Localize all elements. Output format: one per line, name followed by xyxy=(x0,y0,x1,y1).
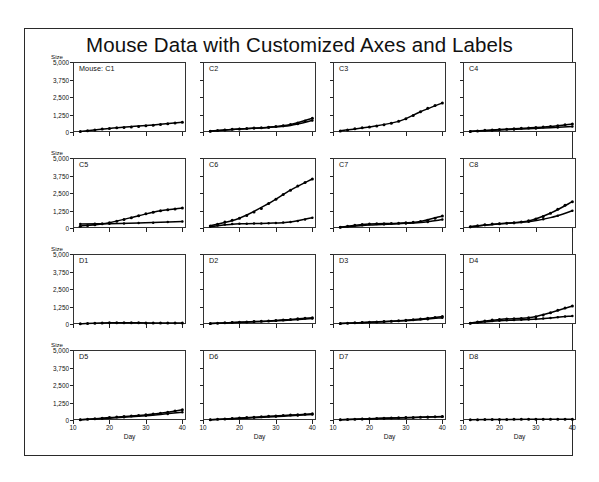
data-point xyxy=(427,318,430,321)
x-tick-label: 10 xyxy=(459,424,466,431)
panel-c8: C8 xyxy=(463,158,576,228)
x-tick-mark xyxy=(73,324,74,328)
y-tick-label: 0 xyxy=(33,129,69,136)
data-point xyxy=(520,319,523,322)
x-axis-label: Day xyxy=(124,433,136,440)
panel-series-plot xyxy=(203,158,316,228)
x-tick-label: 40 xyxy=(309,424,316,431)
data-point xyxy=(564,307,567,310)
data-point xyxy=(405,319,408,322)
data-point xyxy=(441,415,444,418)
data-point xyxy=(159,209,162,212)
data-point xyxy=(441,101,444,104)
panel-series-plot xyxy=(333,158,446,228)
data-point xyxy=(404,117,407,120)
data-point xyxy=(527,220,530,223)
data-point xyxy=(137,214,140,217)
data-point xyxy=(557,214,560,217)
x-tick-mark xyxy=(442,228,443,232)
x-tick-label: 10 xyxy=(329,424,336,431)
data-point xyxy=(383,321,386,324)
panel-series-plot xyxy=(73,158,186,228)
panel-d6: D6 xyxy=(203,350,316,420)
data-point xyxy=(144,321,147,324)
data-point xyxy=(267,202,270,205)
data-point xyxy=(571,122,574,125)
y-tick-label: 1,250 xyxy=(33,303,69,310)
x-tick-mark xyxy=(203,228,204,232)
data-point xyxy=(505,319,508,322)
data-point xyxy=(542,317,545,320)
x-tick-label: 10 xyxy=(69,424,76,431)
panel-series-plot xyxy=(463,62,576,132)
data-point xyxy=(108,127,111,130)
data-point xyxy=(368,125,371,128)
series-tumor-2 xyxy=(79,220,184,225)
data-point xyxy=(549,311,552,314)
figure-frame: Mouse Data with Customized Axes and Labe… xyxy=(24,28,573,456)
data-point xyxy=(527,418,530,421)
data-point xyxy=(426,107,429,110)
data-point xyxy=(513,222,516,225)
x-tick-mark xyxy=(536,132,537,136)
x-tick-mark xyxy=(442,324,443,328)
panel-c6: C6 xyxy=(203,158,316,228)
data-point xyxy=(231,223,234,226)
data-point xyxy=(245,214,248,217)
data-point xyxy=(260,222,263,225)
data-point xyxy=(209,322,212,325)
data-point xyxy=(297,220,300,223)
panel-c3: C3 xyxy=(333,62,446,132)
data-point xyxy=(93,322,96,325)
data-point xyxy=(181,207,184,210)
data-point xyxy=(145,415,148,418)
data-point xyxy=(238,128,241,131)
y-tick-label: 1,250 xyxy=(33,207,69,214)
data-point xyxy=(405,222,408,225)
y-tick-label: 2,500 xyxy=(33,286,69,293)
data-point xyxy=(427,416,430,419)
x-tick-mark xyxy=(333,324,334,328)
data-point xyxy=(534,418,537,421)
data-point xyxy=(469,322,472,325)
x-tick-label: 20 xyxy=(106,424,113,431)
y-tick-label: 5,000 xyxy=(33,155,69,162)
y-tick-label: 5,000 xyxy=(33,59,69,66)
x-tick-label: 10 xyxy=(199,424,206,431)
x-tick-label: 40 xyxy=(439,424,446,431)
data-point xyxy=(137,321,140,324)
data-point xyxy=(419,110,422,113)
data-point xyxy=(167,221,170,224)
series-tumor-1 xyxy=(339,101,444,132)
y-tick-label: 0 xyxy=(33,321,69,328)
data-point xyxy=(557,316,560,319)
y-tick-label: 5,000 xyxy=(33,347,69,354)
data-point xyxy=(556,418,559,421)
x-tick-mark xyxy=(463,420,464,424)
data-point xyxy=(79,130,82,133)
data-point xyxy=(101,321,104,324)
data-point xyxy=(289,189,292,192)
data-point xyxy=(166,208,169,211)
data-point xyxy=(390,122,393,125)
data-point xyxy=(152,321,155,324)
data-point xyxy=(361,224,364,227)
data-point xyxy=(434,104,437,107)
data-point xyxy=(275,222,278,225)
data-point xyxy=(397,120,400,123)
data-point xyxy=(441,316,444,319)
y-tick-label: 0 xyxy=(33,225,69,232)
x-tick-mark xyxy=(276,132,277,136)
panel-series-plot xyxy=(463,350,576,420)
x-tick-mark xyxy=(109,132,110,136)
data-point xyxy=(412,114,415,117)
data-point xyxy=(253,416,256,419)
data-point xyxy=(339,129,342,132)
data-point xyxy=(282,221,285,224)
data-point xyxy=(542,418,545,421)
data-point xyxy=(353,127,356,130)
x-tick-mark xyxy=(239,420,240,424)
data-point xyxy=(498,319,501,322)
data-point xyxy=(79,225,82,228)
x-tick-label: 20 xyxy=(236,424,243,431)
